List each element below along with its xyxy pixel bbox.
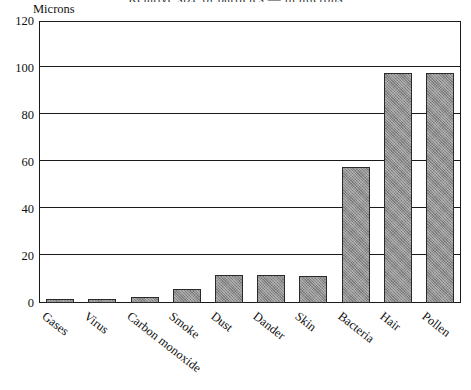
x-tick-label: Dust: [208, 309, 236, 335]
y-tick-label: 60: [0, 155, 34, 170]
bar[interactable]: [426, 73, 454, 303]
bar[interactable]: [384, 73, 412, 303]
bar-slot: [173, 21, 201, 303]
bar[interactable]: [342, 167, 370, 303]
x-tick-label: Pollen: [419, 309, 453, 340]
bar[interactable]: [299, 276, 327, 303]
y-tick-label: 120: [0, 14, 34, 29]
bar-slot: [131, 21, 159, 303]
bar[interactable]: [215, 275, 243, 303]
x-tick-label: Dander: [250, 309, 288, 343]
x-tick-label: Skin: [292, 309, 319, 335]
bar[interactable]: [173, 289, 201, 303]
bar-slot: [299, 21, 327, 303]
x-tick-label: Hair: [376, 309, 403, 334]
x-axis-ticks: GasesVirusCarbon monoxideSmokeDustDander…: [39, 303, 461, 390]
x-tick-label: Smoke: [165, 309, 202, 342]
bar-slot: [46, 21, 74, 303]
bar-slot: [426, 21, 454, 303]
x-tick-label: Carbon monoxide: [123, 309, 203, 376]
bar-slot: [88, 21, 116, 303]
y-tick-label: 100: [0, 61, 34, 76]
bar-slot: [384, 21, 412, 303]
bar-slot: [342, 21, 370, 303]
bar-series: [39, 21, 461, 303]
bar-slot: [257, 21, 285, 303]
x-tick-label: Virus: [81, 309, 112, 337]
y-tick-label: 0: [0, 296, 34, 311]
x-tick-label: Bacteria: [334, 309, 376, 346]
y-tick-label: 40: [0, 202, 34, 217]
y-tick-label: 20: [0, 249, 34, 264]
bar-slot: [215, 21, 243, 303]
y-tick-label: 80: [0, 108, 34, 123]
x-tick-label: Gases: [39, 309, 72, 339]
bar[interactable]: [257, 275, 285, 303]
bar-chart: Relative size of particles — in microns …: [0, 0, 471, 390]
y-axis-label: Microns: [33, 2, 75, 17]
